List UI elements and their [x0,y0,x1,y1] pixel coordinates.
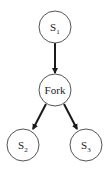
node-fork: Fork [39,74,71,106]
node-s2: S2 [7,129,39,161]
node-s1: S1 [39,11,71,43]
edge-fork-s2 [33,104,46,129]
edge-fork-s3 [64,104,77,129]
node-s3: S3 [70,129,102,161]
fork-diagram: S1 Fork S2 S3 [0,0,111,175]
svg-text:Fork: Fork [45,84,66,96]
